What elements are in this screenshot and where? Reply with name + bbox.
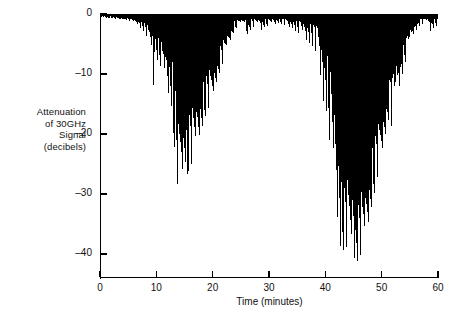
y-tick-label-1: –10 — [58, 67, 92, 78]
y-tick-label-2: –20 — [58, 127, 92, 138]
x-axis-label: Time (minutes) — [100, 296, 439, 307]
x-tick-label-3: 30 — [249, 282, 289, 293]
x-tick-label-1: 10 — [136, 282, 176, 293]
attenuation-chart-figure: Attenuation of 30GHz Signal (decibels) 0… — [0, 0, 457, 320]
x-tick-label-5: 50 — [362, 282, 402, 293]
y-tick-3 — [101, 193, 107, 194]
attenuation-trace — [100, 14, 438, 278]
x-tick-3 — [268, 271, 269, 277]
y-tick-label-3: –30 — [58, 187, 92, 198]
x-tick-2 — [212, 271, 213, 277]
x-tick-label-6: 60 — [418, 282, 457, 293]
y-tick-1 — [101, 73, 107, 74]
x-tick-5 — [381, 271, 382, 277]
y-tick-label-0: 0 — [58, 7, 92, 18]
y-tick-4 — [101, 253, 107, 254]
x-tick-label-0: 0 — [80, 282, 120, 293]
x-tick-4 — [325, 271, 326, 277]
y-tick-label-4: –40 — [58, 247, 92, 258]
x-tick-label-2: 20 — [193, 282, 233, 293]
x-tick-1 — [156, 271, 157, 277]
x-tick-label-4: 40 — [305, 282, 345, 293]
y-tick-0 — [101, 13, 107, 14]
y-axis-label-line-4: (decibels) — [8, 141, 86, 153]
y-axis-label-line-1: Attenuation — [8, 106, 86, 118]
y-tick-2 — [101, 133, 107, 134]
x-tick-0 — [99, 271, 100, 277]
x-tick-6 — [437, 271, 438, 277]
